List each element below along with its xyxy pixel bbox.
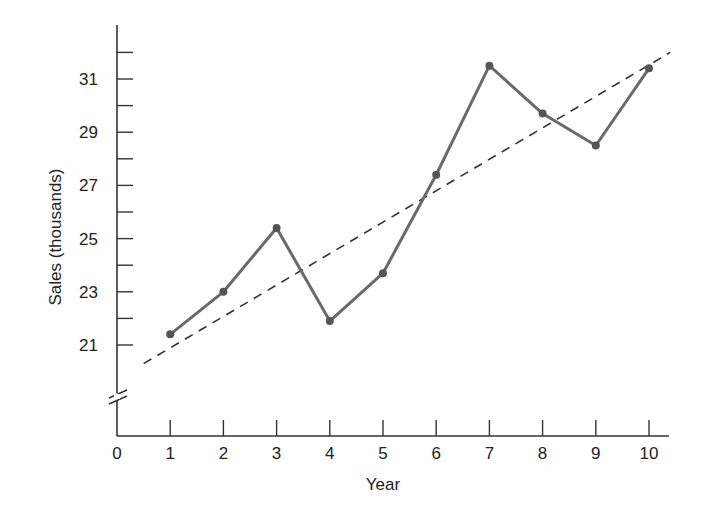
x-tick-label: 8	[538, 444, 547, 463]
y-tick-label: 21	[79, 336, 98, 355]
sales-line-chart: 212325272931 012345678910 Year Sales (th…	[0, 0, 701, 515]
y-axis-ticks: 212325272931	[79, 52, 133, 355]
x-tick-label: 6	[431, 444, 440, 463]
sales-line	[170, 66, 649, 335]
y-tick-label: 27	[79, 176, 98, 195]
data-point-marker	[592, 142, 600, 150]
y-tick-label: 31	[79, 70, 98, 89]
x-axis-title: Year	[366, 475, 401, 494]
data-point-marker	[326, 317, 334, 325]
data-point-marker	[485, 62, 493, 70]
axis-break-icon	[109, 390, 127, 404]
y-axis-title: Sales (thousands)	[46, 168, 65, 305]
y-tick-label: 25	[79, 230, 98, 249]
x-tick-label: 9	[591, 444, 600, 463]
data-point-marker	[539, 110, 547, 118]
data-point-marker	[432, 171, 440, 179]
data-point-marker	[379, 269, 387, 277]
data-point-marker	[645, 64, 653, 72]
trend-dashed-line	[144, 52, 671, 363]
x-tick-label: 4	[325, 444, 334, 463]
x-tick-label: 7	[485, 444, 494, 463]
y-tick-label: 29	[79, 123, 98, 142]
sales-series	[166, 62, 653, 339]
x-tick-label: 0	[112, 444, 121, 463]
data-point-marker	[219, 288, 227, 296]
x-axis-ticks: 012345678910	[112, 420, 658, 463]
x-tick-label: 2	[219, 444, 228, 463]
data-point-marker	[273, 224, 281, 232]
x-tick-label: 10	[640, 444, 659, 463]
trend-line	[144, 52, 671, 363]
x-tick-label: 3	[272, 444, 281, 463]
axes	[109, 25, 669, 436]
y-tick-label: 23	[79, 283, 98, 302]
x-tick-label: 5	[378, 444, 387, 463]
data-point-marker	[166, 330, 174, 338]
x-tick-label: 1	[165, 444, 174, 463]
